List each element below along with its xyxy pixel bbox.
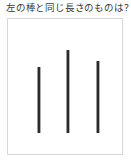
bar-left[interactable] [38,67,40,133]
question-prompt: 左の棒と同じ長さのものは？ [6,1,130,15]
stimulus-box [7,18,123,155]
bar-middle[interactable] [67,50,69,133]
screenshot-root: 左の棒と同じ長さのものは？ [0,0,131,161]
bar-right[interactable] [97,61,99,133]
